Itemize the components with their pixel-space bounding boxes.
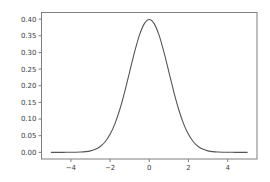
normal-distribution-plot: −4−20240.000.050.100.150.200.250.300.350… — [0, 0, 270, 182]
y-tick-label: 0.25 — [21, 66, 37, 74]
plot-frame — [42, 13, 258, 160]
y-tick-label: 0.05 — [21, 132, 37, 140]
y-tick-label: 0.40 — [21, 16, 37, 24]
x-tick-label: −2 — [105, 164, 115, 172]
x-tick-label: 4 — [225, 164, 230, 172]
y-tick-label: 0.15 — [21, 99, 37, 107]
y-tick-label: 0.35 — [21, 32, 37, 40]
x-tick-label: −4 — [66, 164, 77, 172]
figure-canvas: −4−20240.000.050.100.150.200.250.300.350… — [0, 0, 270, 182]
y-tick-label: 0.00 — [21, 149, 37, 157]
y-tick-label: 0.10 — [21, 115, 37, 123]
y-tick-label: 0.20 — [21, 82, 37, 90]
x-tick-label: 0 — [147, 164, 151, 172]
x-tick-label: 2 — [186, 164, 190, 172]
y-tick-label: 0.30 — [21, 49, 37, 57]
